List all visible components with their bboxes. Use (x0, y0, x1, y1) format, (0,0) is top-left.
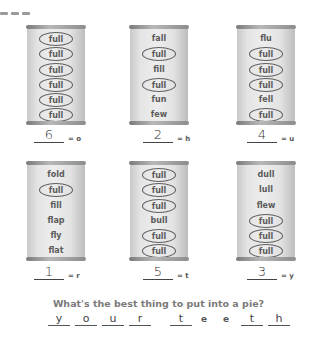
answer-letter: = y (281, 272, 294, 280)
answer-blank[interactable]: 1 (34, 265, 64, 280)
word[interactable]: few (142, 108, 176, 122)
answer-letter: = r (68, 272, 80, 280)
answer-4: 1 = r (34, 265, 80, 280)
circled-word[interactable]: full (249, 108, 283, 122)
solution-given-letter: e (197, 313, 211, 326)
answer-1: 6 = o (34, 128, 81, 143)
word[interactable]: fill (39, 199, 73, 213)
word-list: foldfullfillflapflyflat (27, 168, 85, 260)
solution-blank[interactable]: o (75, 312, 97, 326)
word[interactable]: flap (39, 214, 73, 228)
can-6: dulllullflewfullfullfull (237, 163, 295, 259)
circled-word[interactable]: full (142, 244, 176, 258)
word[interactable]: flat (39, 244, 73, 258)
can-5: fullfullfullbullfullfull (130, 163, 188, 259)
can-3: flufullfullfullfellfull (237, 27, 295, 123)
circled-word[interactable]: full (142, 229, 176, 243)
circled-word[interactable]: full (39, 63, 73, 77)
word[interactable]: fell (249, 93, 283, 107)
word[interactable]: dull (249, 168, 283, 182)
answer-2: 2 = h (143, 128, 190, 143)
solution-blank[interactable]: r (129, 312, 151, 326)
circled-word[interactable]: full (39, 47, 73, 61)
answer-blank[interactable]: 4 (247, 128, 277, 143)
word-list: dulllullflewfullfullfull (237, 168, 295, 260)
answer-blank[interactable]: 5 (143, 265, 173, 280)
circled-word[interactable]: full (249, 244, 283, 258)
answer-5: 5 = t (143, 265, 189, 280)
answer-blank[interactable]: 6 (34, 128, 64, 143)
can-2: fallfullfillfullfunfew (130, 27, 188, 123)
circled-word[interactable]: full (142, 168, 176, 182)
answer-letter: = o (68, 135, 81, 143)
circled-word[interactable]: full (249, 229, 283, 243)
answer-3: 4 = u (247, 128, 294, 143)
solution-blank[interactable]: h (268, 312, 290, 326)
can-1: fullfullfullfullfullfull (27, 27, 85, 123)
circled-word[interactable]: full (39, 93, 73, 107)
answer-letter: = t (177, 272, 189, 280)
solution-blank[interactable]: u (102, 312, 124, 326)
can-4: foldfullfillflapflyflat (27, 163, 85, 259)
word-list: flufullfullfullfellfull (237, 32, 295, 124)
riddle-question: What's the best thing to put into a pie? (0, 298, 317, 309)
circled-word[interactable]: full (142, 47, 176, 61)
answer-letter: = u (281, 135, 294, 143)
word[interactable]: fold (39, 168, 73, 182)
answer-blank[interactable]: 2 (143, 128, 173, 143)
word[interactable]: flew (249, 199, 283, 213)
circled-word[interactable]: full (249, 63, 283, 77)
word-list: fullfullfullbullfullfull (130, 168, 188, 260)
solution-blank[interactable]: t (241, 312, 263, 326)
word[interactable]: fall (142, 32, 176, 46)
word[interactable]: flu (249, 32, 283, 46)
circled-word[interactable]: full (39, 78, 73, 92)
answer-blank[interactable]: 3 (247, 265, 277, 280)
word-list: fallfullfillfullfunfew (130, 32, 188, 124)
answer-letter: = h (177, 135, 190, 143)
circled-word[interactable]: full (142, 199, 176, 213)
circled-word[interactable]: full (39, 183, 73, 197)
solution-blank[interactable]: t (170, 312, 192, 326)
answer-6: 3 = y (247, 265, 294, 280)
circled-word[interactable]: full (39, 108, 73, 122)
circled-word[interactable]: full (249, 47, 283, 61)
word[interactable]: lull (249, 183, 283, 197)
word[interactable]: bull (142, 214, 176, 228)
circled-word[interactable]: full (39, 32, 73, 46)
riddle-solution: yourteeth (48, 312, 295, 326)
circled-word[interactable]: full (142, 183, 176, 197)
word[interactable]: fly (39, 229, 73, 243)
solution-blank[interactable]: y (48, 312, 70, 326)
solution-given-letter: e (219, 313, 233, 326)
word[interactable]: fun (142, 93, 176, 107)
word[interactable]: fill (142, 63, 176, 77)
circled-word[interactable]: full (249, 214, 283, 228)
cropped-header-fragment (0, 0, 40, 6)
circled-word[interactable]: full (142, 78, 176, 92)
word-list: fullfullfullfullfullfull (27, 32, 85, 124)
circled-word[interactable]: full (249, 78, 283, 92)
